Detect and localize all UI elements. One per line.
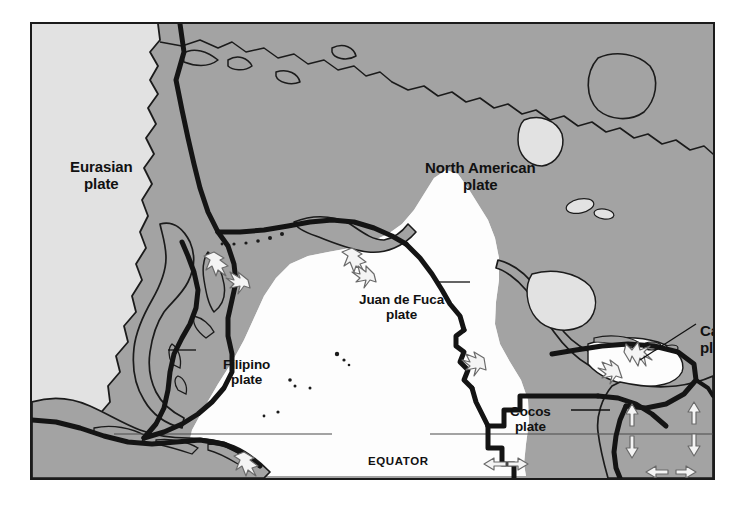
map-figure: Eurasian plate North American plate Juan… xyxy=(0,0,743,512)
greenland xyxy=(588,54,655,119)
map-frame: Eurasian plate North American plate Juan… xyxy=(30,22,715,480)
tectonic-plates-map-graphic xyxy=(32,24,713,478)
hudson-bay xyxy=(518,118,563,166)
